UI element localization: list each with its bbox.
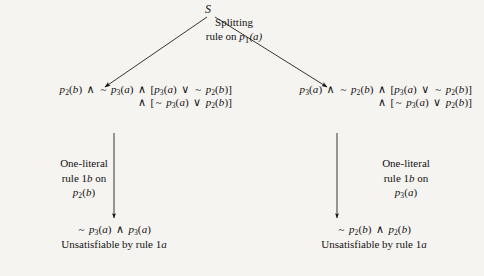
splitting-rule-label-arg: (a) [249,30,262,42]
left-leaf-note: Unsatisfiable by rule 1a [14,237,214,252]
right-branch-formula: p3(a) ∧ ~ p2(b) ∧ [p3(a) ∨ ~ p2(b)] ∧ [~… [242,83,472,110]
right-branch-formula-line1: p3(a) ∧ ~ p2(b) ∧ [p3(a) ∨ ~ p2(b)] [300,83,472,95]
left-rule-line3: p2(b) [73,186,96,198]
left-one-literal-rule-label: One-literal rule 1b on p2(b) [24,156,144,200]
splitting-rule-label-line1: Splitting [215,16,253,28]
right-leaf-note: Unsatisfiable by rule 1a [274,237,474,252]
left-branch-formula-line1: p2(b) ∧ ~ p3(a) ∧ [p3(a) ∨ ~ p2(b)] [60,83,232,95]
right-leaf-node: ~ p2(b) ∧ p2(b) Unsatisfiable by rule 1a [274,222,474,252]
splitting-rule-label: Splitting rule on p1(a) [174,15,294,47]
left-rule-line2: rule 1b on [62,172,107,184]
left-rule-line1: One-literal [60,157,108,169]
right-rule-line1: One-literal [382,157,430,169]
left-branch-formula-line2: ∧ [~ p3(a) ∨ p2(b)] [136,96,232,108]
right-one-literal-rule-label: One-literal rule 1b on p3(a) [346,156,466,200]
left-leaf-node: ~ p3(a) ∧ p3(a) Unsatisfiable by rule 1a [14,222,214,252]
splitting-rule-diagram: S Splitting rule on p1(a) p2(b) ∧ ~ p3(a… [0,0,484,276]
right-leaf-formula: ~ p2(b) ∧ p2(b) [274,222,474,237]
left-leaf-formula: ~ p3(a) ∧ p3(a) [14,222,214,237]
right-branch-formula-line2: ∧ [~ p3(a) ∨ p2(b)] [376,96,472,108]
right-rule-line2: rule 1b on [384,172,429,184]
left-branch-formula: p2(b) ∧ ~ p3(a) ∧ [p3(a) ∨ ~ p2(b)] ∧ [~… [10,83,232,110]
splitting-rule-label-line2-prefix: rule on [206,30,240,42]
right-rule-line3: p3(a) [395,186,418,198]
